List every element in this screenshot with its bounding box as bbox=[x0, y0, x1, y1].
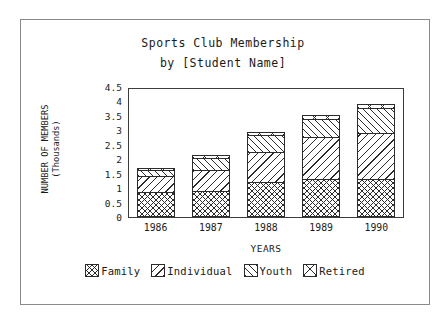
legend-label: Retired bbox=[319, 265, 365, 277]
x-axis-label-1986: 1986 bbox=[137, 222, 175, 236]
y-axis-ticks: 00.511.522.533.544.5 bbox=[96, 82, 128, 224]
y-axis-tick-label: 3.5 bbox=[105, 112, 122, 122]
y-axis-tick-label: 0.5 bbox=[105, 199, 122, 209]
y-axis-tick-label: 0 bbox=[116, 213, 122, 223]
legend-swatch-retired-icon bbox=[303, 264, 317, 277]
bar-segment-family[interactable] bbox=[192, 191, 230, 217]
x-axis-label-1989: 1989 bbox=[302, 222, 340, 236]
x-axis-label-1990: 1990 bbox=[357, 222, 395, 236]
legend-swatch-family-icon bbox=[85, 264, 99, 277]
chart-page: Sports Club Membership by [Student Name]… bbox=[0, 0, 446, 324]
bar-segment-family[interactable] bbox=[302, 179, 340, 217]
y-axis-tick-label: 2.5 bbox=[105, 141, 122, 151]
y-axis-title-line1: NUMBER OF MEMBERS bbox=[40, 105, 50, 194]
legend-label: Family bbox=[101, 265, 140, 277]
y-axis-title: NUMBER OF MEMBERS (Thousands) bbox=[38, 80, 64, 218]
legend-label: Individual bbox=[167, 265, 232, 277]
x-axis-label-1987: 1987 bbox=[192, 222, 230, 236]
bar-1986[interactable] bbox=[137, 169, 175, 217]
bar-segment-individual[interactable] bbox=[357, 133, 395, 180]
x-axis-labels: 19861987198819891990 bbox=[128, 222, 404, 236]
y-axis-tick-label: 4 bbox=[116, 97, 122, 107]
bar-segment-youth[interactable] bbox=[357, 108, 395, 134]
legend-item-youth[interactable]: Youth bbox=[244, 264, 293, 277]
bar-segment-youth[interactable] bbox=[302, 119, 340, 138]
y-axis-tick-label: 1 bbox=[116, 184, 122, 194]
legend-swatch-individual-icon bbox=[151, 264, 165, 277]
y-axis-tick-label: 3 bbox=[116, 126, 122, 136]
bar-1990[interactable] bbox=[357, 105, 395, 217]
legend-item-retired[interactable]: Retired bbox=[303, 264, 365, 277]
bar-group bbox=[129, 89, 403, 217]
bar-segment-family[interactable] bbox=[357, 179, 395, 217]
chart-subtitle: by [Student Name] bbox=[0, 56, 446, 70]
legend-item-individual[interactable]: Individual bbox=[151, 264, 232, 277]
x-axis-title: YEARS bbox=[128, 243, 404, 254]
bar-segment-family[interactable] bbox=[137, 192, 175, 217]
bar-segment-individual[interactable] bbox=[137, 176, 175, 193]
y-axis-tick-label: 4.5 bbox=[105, 83, 122, 93]
legend-label: Youth bbox=[260, 265, 293, 277]
chart-title: Sports Club Membership bbox=[0, 36, 446, 50]
bar-segment-individual[interactable] bbox=[247, 152, 285, 184]
y-axis-tick-label: 2 bbox=[116, 155, 122, 165]
bar-segment-individual[interactable] bbox=[302, 137, 340, 180]
y-axis-tick-label: 1.5 bbox=[105, 170, 122, 180]
bar-1988[interactable] bbox=[247, 133, 285, 217]
legend-swatch-youth-icon bbox=[244, 264, 258, 277]
legend-item-family[interactable]: Family bbox=[85, 264, 140, 277]
bar-segment-youth[interactable] bbox=[247, 135, 285, 152]
bar-segment-individual[interactable] bbox=[192, 170, 230, 192]
plot-area bbox=[128, 88, 404, 218]
chart-legend: FamilyIndividualYouthRetired bbox=[20, 264, 430, 277]
x-axis-label-1988: 1988 bbox=[247, 222, 285, 236]
bar-1989[interactable] bbox=[302, 116, 340, 217]
bar-segment-family[interactable] bbox=[247, 182, 285, 217]
y-axis-title-line2: (Thousands) bbox=[51, 120, 61, 178]
bar-1987[interactable] bbox=[192, 156, 230, 217]
